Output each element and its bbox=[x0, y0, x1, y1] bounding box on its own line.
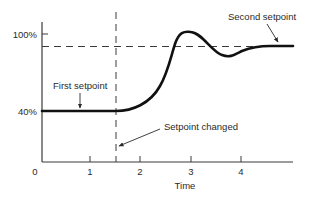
y-tick-label-100: 100% bbox=[13, 29, 38, 40]
setpoint-changed-label: Setpoint changed bbox=[164, 121, 238, 132]
first-setpoint-label: First setpoint bbox=[53, 80, 108, 91]
setpoint-response-chart: 100% 40% 0 1 2 3 4 Time First setpoint S… bbox=[0, 0, 311, 197]
x-tick-label-0: 0 bbox=[32, 166, 37, 177]
x-tick-label-3: 3 bbox=[188, 166, 193, 177]
x-tick-label-4: 4 bbox=[238, 166, 243, 177]
x-axis-title: Time bbox=[175, 180, 196, 191]
x-tick-label-2: 2 bbox=[137, 166, 142, 177]
setpoint-changed-arrow bbox=[119, 129, 160, 146]
second-setpoint-label: Second setpoint bbox=[228, 11, 296, 22]
second-setpoint-arrow bbox=[267, 24, 278, 42]
y-tick-label-40: 40% bbox=[18, 106, 38, 117]
x-tick-label-1: 1 bbox=[87, 166, 92, 177]
